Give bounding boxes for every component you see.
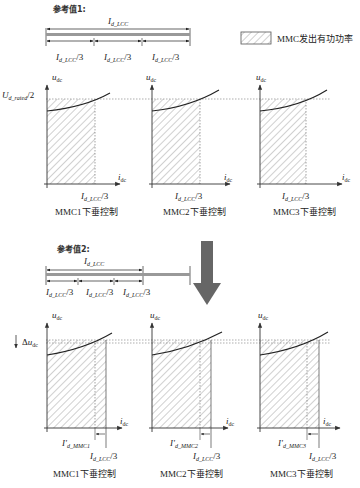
droop-control-diagram: 参考值1: Id_LCC Id_LCC/3 Id_LCC/3 Id_LCC/3 … — [0, 0, 360, 488]
x-axis-label: idc — [342, 172, 351, 183]
y-axis-label: udc — [52, 310, 63, 321]
delta-u-label: Δudc — [22, 337, 38, 348]
reference-1: 参考值1: Id_LCC Id_LCC/3 Id_LCC/3 Id_LCC/3 — [46, 4, 190, 63]
ref1-total-label: Id_LCC — [107, 16, 129, 27]
caption: MMC2下垂控制 — [160, 468, 223, 479]
reference-2: 参考值2: Id_LCC Id_LCC/3 Id_LCC/3 Id_LCC/3 — [45, 244, 190, 298]
u-rated-label: Ud_rated/2 — [2, 90, 34, 101]
bottom-panel-mmc3: udc idc I'd_MMC3 Id_LCC/3 MMC3下垂控制 — [257, 310, 340, 479]
caption: MMC2下垂控制 — [163, 206, 226, 217]
top-panel-mmc1: udc idc Id_LCC/3 MMC1下垂控制 — [44, 72, 127, 217]
x-mark: Id_LCC/3 — [192, 451, 221, 462]
x-mark: Id_LCC/3 — [174, 191, 203, 202]
caption: MMC1下垂控制 — [53, 468, 116, 479]
top-panel-mmc3: udc idc Id_LCC/3 MMC3下垂控制 — [256, 72, 351, 217]
x-mark: Id_LCC/3 — [80, 191, 109, 202]
y-axis-label: udc — [150, 310, 161, 321]
ref2-segment-2: Id_LCC/3 — [85, 287, 114, 298]
y-axis-label: udc — [146, 72, 157, 83]
ref2-bar — [46, 273, 190, 276]
new-mark: I'd_MMC1 — [61, 438, 90, 449]
caption: MMC3下垂控制 — [273, 206, 336, 217]
ref1-segment-2: Id_LCC/3 — [103, 52, 132, 63]
x-axis-label: idc — [323, 416, 332, 427]
caption: MMC1下垂控制 — [55, 206, 118, 217]
ref1-segment-3: Id_LCC/3 — [151, 52, 180, 63]
x-mark: Id_LCC/3 — [89, 451, 118, 462]
top-row: Ud_rated/2 udc idc Id_LCC/3 MMC1下垂控制 udc… — [2, 72, 351, 217]
x-mark: Id_LCC/3 — [308, 451, 337, 462]
ref1-segment-1: Id_LCC/3 — [55, 52, 84, 63]
x-axis-label: idc — [224, 172, 233, 183]
top-panel-mmc2: udc idc Id_LCC/3 MMC2下垂控制 — [146, 72, 233, 217]
x-axis-label: idc — [120, 416, 129, 427]
bottom-panel-mmc2: udc idc I'd_MMC2 Id_LCC/3 MMC2下垂控制 — [149, 310, 235, 479]
ref2-segment-1: Id_LCC/3 — [45, 287, 74, 298]
new-mark: I'd_MMC2 — [169, 438, 198, 449]
y-axis-label: udc — [258, 310, 269, 321]
ref2-segment-3: Id_LCC/3 — [122, 287, 151, 298]
transition-down-arrow-icon — [193, 241, 221, 305]
legend: MMC发出有功功率 — [241, 32, 353, 44]
legend-swatch-icon — [241, 32, 271, 44]
ref1-bar — [46, 33, 190, 36]
bottom-panel-mmc1: udc idc I'd_MMC1 Id_LCC/3 MMC1下垂控制 — [44, 310, 129, 479]
x-axis-label: idc — [118, 172, 127, 183]
y-axis-label: udc — [256, 72, 267, 83]
x-mark: Id_LCC/3 — [281, 191, 310, 202]
new-mark: I'd_MMC3 — [277, 438, 306, 449]
x-axis-label: idc — [226, 416, 235, 427]
ref2-title: 参考值2: — [56, 244, 90, 254]
y-axis-label: udc — [52, 72, 63, 83]
legend-label: MMC发出有功功率 — [277, 33, 353, 44]
bottom-row: Δudc udc idc I'd_MMC1 Id_LCC/3 MMC1下垂控制 — [16, 310, 340, 479]
ref1-title: 参考值1: — [52, 4, 86, 14]
ref2-total-label: Id_LCC — [83, 256, 105, 267]
caption: MMC3下垂控制 — [270, 468, 333, 479]
